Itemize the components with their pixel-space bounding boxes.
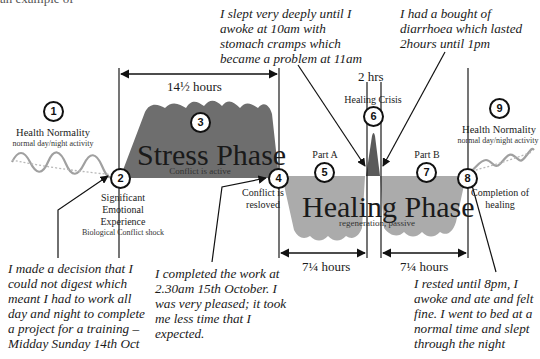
note-decision-line-3: meant I had to work all: [8, 291, 158, 306]
note-slept-line-1: I slept very deeply until I: [220, 6, 380, 21]
stage-9-marker: 9: [489, 98, 510, 119]
stage-4-marker: 4: [268, 168, 289, 189]
note-decision-line-6: Midday Sunday 14th Oct: [8, 336, 158, 351]
stage-6-marker: 6: [363, 106, 384, 127]
stage-5-title: Part A: [300, 149, 350, 160]
stage-2-subtitle: Biological Conflict shock: [75, 228, 171, 237]
note-slept-line-2: awoke at 10am with: [220, 21, 380, 36]
note-completed-line-2: 2.30am 15th October. I: [155, 281, 305, 296]
stage-2-title-line-2: Emotional: [88, 204, 158, 215]
stage-4-title-line-1: Conflict is: [228, 187, 298, 198]
stress-duration-label: 14½ hours: [167, 80, 222, 94]
note-completed-line-4: me less time that I: [155, 311, 305, 326]
note-rested-line-3: fine. I went to bed at a: [414, 306, 540, 321]
note-completed: I completed the work at 2.30am 15th Octo…: [155, 266, 305, 341]
note-completed-line-1: I completed the work at: [155, 266, 305, 281]
note-decision-line-2: could not digest which: [8, 276, 158, 291]
note-decision-line-4: day and night to complete: [8, 306, 158, 321]
stage-8-title-line-1: Completion of: [460, 187, 540, 198]
stage-3-marker: 3: [190, 112, 211, 133]
part-b-duration-label: 7¼ hours: [400, 260, 448, 274]
note-diarrhoea: I had a bought of diarrhoea which lasted…: [400, 6, 540, 51]
note-decision: I made a decision that I could not diges…: [8, 261, 158, 351]
note-rested-line-4: normal time and slept: [414, 321, 540, 336]
stage-2-title-line-3: Experience: [88, 216, 158, 227]
note-slept: I slept very deeply until I awoke at 10a…: [220, 6, 380, 66]
stage-4-title-line-2: resloved: [228, 199, 298, 210]
note-decision-line-1: I made a decision that I: [8, 261, 158, 276]
note-diarrhoea-line-3: 2hours until 1pm: [400, 36, 540, 51]
note-diarrhoea-line-1: I had a bought of: [400, 6, 540, 21]
stage-8-marker: 8: [457, 168, 478, 189]
stage-1-title: Health Normality: [0, 127, 106, 138]
note-slept-line-4: became a problem at 11am: [220, 51, 380, 66]
stage-7-marker: 7: [416, 162, 437, 183]
stage-8-title-line-2: healing: [460, 199, 540, 210]
stress-phase-subtitle: Conflict is active: [150, 167, 250, 176]
stage-2-title-line-1: Significant: [88, 192, 158, 203]
part-a-duration-label: 7¼ hours: [302, 260, 350, 274]
crisis-duration-label: 2 hrs: [358, 70, 384, 84]
note-rested-line-1: I rested until 8pm, I: [414, 276, 540, 291]
stage-9-subtitle: normal day/night activity: [450, 136, 540, 145]
note-slept-line-3: stomach cramps which: [220, 36, 380, 51]
note-completed-line-5: expected.: [155, 326, 305, 341]
stage-1-marker: 1: [43, 101, 64, 122]
stage-1-subtitle: normal day/night activity: [0, 139, 106, 148]
note-diarrhoea-line-2: diarrhoea which lasted: [400, 21, 540, 36]
stage-6-title: Healing Crisis: [338, 94, 408, 105]
stage-7-title: Part B: [402, 149, 452, 160]
healing-crisis-spike: [366, 133, 380, 176]
note-rested: I rested until 8pm, I awoke and ate and …: [414, 276, 540, 351]
normality-wave-left: [12, 152, 116, 177]
normality-wave-right: [468, 149, 534, 172]
cropped-header-text: an example of: [0, 0, 74, 7]
healing-phase-subtitle: regeneration, passive: [322, 219, 432, 228]
note-decision-line-5: a project for a training –: [8, 321, 158, 336]
note-rested-line-5: through the night: [414, 336, 540, 351]
stage-5-marker: 5: [314, 162, 335, 183]
stage-9-title: Health Normality: [454, 124, 540, 135]
note-rested-line-2: awoke and ate and felt: [414, 291, 540, 306]
stage-2-marker: 2: [110, 168, 131, 189]
note-completed-line-3: was very pleased; it took: [155, 296, 305, 311]
